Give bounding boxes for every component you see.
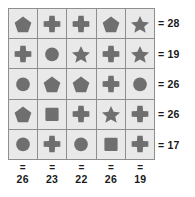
col-sum-5: =19 — [126, 162, 155, 195]
grid-cell-r3-c4[interactable] — [97, 69, 126, 99]
grid-cell-r5-c1[interactable] — [9, 130, 38, 160]
grid-cell-r2-c3[interactable] — [67, 39, 96, 69]
equals-sign: = — [158, 48, 164, 60]
shape-sum-puzzle: =28=19=26=26=17 =26=23=22=26=19 — [0, 0, 195, 197]
equals-sign: = — [158, 17, 164, 29]
equals-sign: = — [108, 162, 114, 173]
grid-cell-r5-c4[interactable] — [97, 130, 126, 160]
circle-icon — [12, 73, 34, 95]
cross-icon — [70, 103, 92, 125]
col-sum-value: 22 — [75, 173, 87, 185]
grid-cell-r3-c5[interactable] — [126, 69, 155, 99]
circle-icon — [129, 73, 151, 95]
row-sum-value: 17 — [167, 139, 179, 151]
grid-cell-r1-c5[interactable] — [126, 9, 155, 39]
col-sum-value: 23 — [46, 173, 58, 185]
cross-icon — [70, 13, 92, 35]
circle-icon — [41, 43, 63, 65]
cross-icon — [100, 73, 122, 95]
col-sum-2: =23 — [37, 162, 66, 195]
col-sum-value: 26 — [17, 173, 29, 185]
cross-icon — [41, 13, 63, 35]
grid-cell-r5-c5[interactable] — [126, 130, 155, 160]
row-sum-value: 26 — [167, 108, 179, 120]
col-sum-1: =26 — [8, 162, 37, 195]
pentagon-icon — [41, 73, 63, 95]
grid-cell-r3-c2[interactable] — [38, 69, 67, 99]
row-sum-3: =26 — [158, 69, 195, 99]
grid-cell-r4-c4[interactable] — [97, 100, 126, 130]
grid-cell-r3-c1[interactable] — [9, 69, 38, 99]
equals-sign: = — [158, 139, 164, 151]
grid-cell-r2-c1[interactable] — [9, 39, 38, 69]
equals-sign: = — [158, 78, 164, 90]
row-sum-1: =28 — [158, 8, 195, 38]
grid-cell-r1-c2[interactable] — [38, 9, 67, 39]
row-sum-value: 26 — [167, 78, 179, 90]
grid-cell-r2-c2[interactable] — [38, 39, 67, 69]
equals-sign: = — [49, 162, 55, 173]
star-icon — [129, 13, 151, 35]
shape-grid — [8, 8, 155, 160]
grid-cell-r4-c2[interactable] — [38, 100, 67, 130]
pentagon-icon — [12, 13, 34, 35]
pentagon-icon — [100, 13, 122, 35]
square-icon — [100, 133, 122, 155]
pentagon-icon — [70, 73, 92, 95]
cross-icon — [129, 103, 151, 125]
cross-icon — [12, 43, 34, 65]
grid-cell-r4-c5[interactable] — [126, 100, 155, 130]
cross-icon — [129, 133, 151, 155]
col-sum-value: 26 — [105, 173, 117, 185]
square-icon — [41, 103, 63, 125]
col-sum-3: =22 — [67, 162, 96, 195]
grid-cell-r5-c2[interactable] — [38, 130, 67, 160]
grid-cell-r4-c1[interactable] — [9, 100, 38, 130]
grid-cell-r5-c3[interactable] — [67, 130, 96, 160]
col-sums-row: =26=23=22=26=19 — [8, 162, 155, 195]
col-sum-value: 19 — [134, 173, 146, 185]
grid-cell-r1-c1[interactable] — [9, 9, 38, 39]
row-sum-value: 28 — [167, 17, 179, 29]
grid-cell-r2-c5[interactable] — [126, 39, 155, 69]
grid-cell-r4-c3[interactable] — [67, 100, 96, 130]
row-sum-value: 19 — [167, 48, 179, 60]
grid-cell-r2-c4[interactable] — [97, 39, 126, 69]
star-icon — [129, 43, 151, 65]
star-icon — [100, 103, 122, 125]
pentagon-icon — [12, 103, 34, 125]
row-sum-5: =17 — [158, 130, 195, 160]
row-sum-4: =26 — [158, 99, 195, 129]
row-sum-2: =19 — [158, 38, 195, 68]
circle-icon — [12, 133, 34, 155]
col-sum-4: =26 — [96, 162, 125, 195]
cross-icon — [100, 43, 122, 65]
cross-icon — [41, 133, 63, 155]
equals-sign: = — [137, 162, 143, 173]
grid-cell-r3-c3[interactable] — [67, 69, 96, 99]
equals-sign: = — [79, 162, 85, 173]
grid-cell-r1-c3[interactable] — [67, 9, 96, 39]
grid-cell-r1-c4[interactable] — [97, 9, 126, 39]
circle-icon — [70, 133, 92, 155]
equals-sign: = — [158, 108, 164, 120]
star-icon — [70, 43, 92, 65]
row-sums-column: =28=19=26=26=17 — [158, 8, 195, 160]
equals-sign: = — [20, 162, 26, 173]
